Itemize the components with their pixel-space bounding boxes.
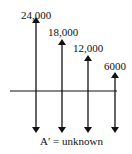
receipt-label-1: 24,000 xyxy=(21,9,52,21)
cash-flow-diagram: 24,000 18,000 12,000 6000 A′ = unknown xyxy=(0,0,132,154)
payment-label: A′ = unknown xyxy=(40,135,103,147)
receipt-label-3: 12,000 xyxy=(73,42,104,54)
receipt-label-2: 18,000 xyxy=(48,26,79,38)
receipt-label-4: 6000 xyxy=(104,60,127,72)
